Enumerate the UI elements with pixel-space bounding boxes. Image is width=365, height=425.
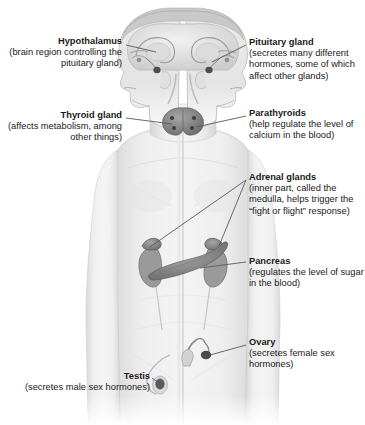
label-thyroid-description: (affects metabolism, among other things) <box>0 121 122 143</box>
label-testis-description: (secretes male sex hormones) <box>0 382 150 393</box>
label-hypothalamus-title: Hypothalamus <box>2 36 122 47</box>
label-ovary-title: Ovary <box>249 337 365 348</box>
label-hypothalamus-description: (brain region controlling the pituitary … <box>2 47 122 69</box>
label-ovary: Ovary (secretes female sex hormones) <box>249 337 365 371</box>
label-pancreas-title: Pancreas <box>249 256 365 267</box>
label-pituitary-gland: Pituitary gland (secretes many different… <box>249 37 365 82</box>
label-pancreas: Pancreas (regulates the level of sugar i… <box>249 256 365 290</box>
label-thyroid-title: Thyroid gland <box>0 110 122 121</box>
label-pituitary-description: (secretes many different hormones, some … <box>249 48 365 82</box>
label-testis: Testis (secretes male sex hormones) <box>0 371 150 393</box>
label-adrenal-title: Adrenal glands <box>249 172 365 183</box>
label-hypothalamus: Hypothalamus (brain region controlling t… <box>2 36 122 70</box>
label-thyroid-gland: Thyroid gland (affects metabolism, among… <box>0 110 122 144</box>
pituitary-gland-right <box>205 67 212 73</box>
label-pancreas-description: (regulates the level of sugar in the blo… <box>249 267 365 289</box>
label-parathyroids-description: (help regulate the level of calcium in t… <box>249 119 365 141</box>
pituitary-gland-left <box>153 67 160 73</box>
label-ovary-description: (secretes female sex hormones) <box>249 348 365 370</box>
ovary-gland <box>201 351 211 359</box>
label-parathyroids-title: Parathyroids <box>249 108 365 119</box>
label-adrenal-glands: Adrenal glands (inner part, called the m… <box>249 172 365 217</box>
label-testis-title: Testis <box>0 371 150 382</box>
label-parathyroids: Parathyroids (help regulate the level of… <box>249 108 365 142</box>
label-adrenal-description: (inner part, called the medulla, helps t… <box>249 183 365 217</box>
label-pituitary-title: Pituitary gland <box>249 37 365 48</box>
